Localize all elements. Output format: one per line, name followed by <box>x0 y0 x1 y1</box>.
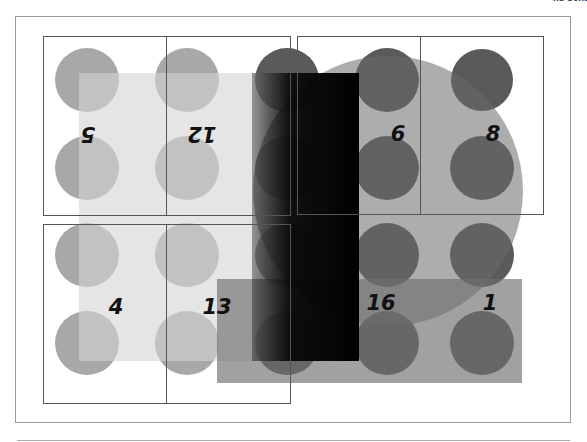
black-bar <box>252 73 359 361</box>
label-4: 4 <box>108 295 124 319</box>
label-8: 8 <box>486 122 501 146</box>
label-12: 12 <box>187 122 216 146</box>
label-13: 13 <box>202 295 231 319</box>
label-5: 5 <box>81 122 96 146</box>
pattern-canvas: 5 12 6 8 4 13 16 1 <box>0 0 587 442</box>
label-16: 16 <box>366 291 395 315</box>
label-1: 1 <box>483 291 498 315</box>
label-6: 6 <box>391 122 406 146</box>
